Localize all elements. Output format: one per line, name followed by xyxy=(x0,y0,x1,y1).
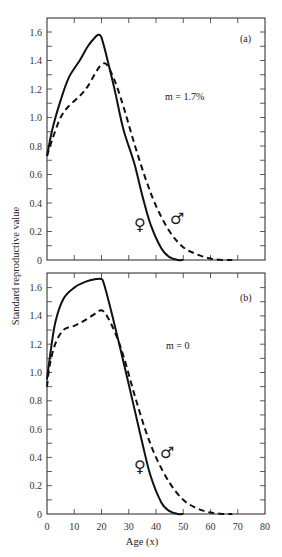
y-tick-label: 1.2 xyxy=(30,84,43,95)
panel-a-annotation: m = 1.7% xyxy=(165,91,204,102)
panel-b-annotation: m = 0 xyxy=(166,340,189,351)
y-axis-label: Standard reproductive value xyxy=(10,206,21,325)
x-tick-label: 20 xyxy=(97,521,107,532)
y-tick-label: 1.4 xyxy=(30,55,43,66)
x-tick-label: 0 xyxy=(45,521,50,532)
male-curve xyxy=(47,310,232,514)
y-tick-label: 1.2 xyxy=(30,339,43,350)
female-curve xyxy=(47,279,183,515)
panel-a-frame xyxy=(47,18,265,260)
x-tick-label: 70 xyxy=(233,521,243,532)
y-tick-label: 0.2 xyxy=(30,226,43,237)
y-tick-label: 0 xyxy=(37,255,42,266)
y-tick-label: 1.4 xyxy=(30,310,43,321)
female-symbol-a: ♀ xyxy=(134,215,146,234)
y-tick-label: 1.6 xyxy=(30,282,43,293)
female-curve xyxy=(47,35,183,261)
panel-a-label: (a) xyxy=(240,33,251,45)
x-tick-label: 10 xyxy=(69,521,79,532)
x-tick-label: 60 xyxy=(206,521,216,532)
reproductive-value-chart: 00.20.40.60.81.01.21.41.600.20.40.60.81.… xyxy=(0,0,282,557)
x-tick-label: 30 xyxy=(124,521,134,532)
male-symbol-a: ♂ xyxy=(170,209,184,228)
x-axis-label: Age (x) xyxy=(126,536,159,548)
x-tick-label: 50 xyxy=(178,521,188,532)
y-tick-label: 0.2 xyxy=(30,480,43,491)
x-tick-label: 80 xyxy=(260,521,270,532)
axis-tick-labels: 00.20.40.60.81.01.21.41.600.20.40.60.81.… xyxy=(30,27,271,533)
y-tick-label: 0.6 xyxy=(30,424,43,435)
axis-ticks xyxy=(47,18,265,514)
y-tick-label: 0.6 xyxy=(30,169,43,180)
y-tick-label: 0 xyxy=(37,509,42,520)
panel-b-frame xyxy=(47,273,265,514)
y-tick-label: 0.4 xyxy=(30,452,43,463)
y-tick-label: 0.4 xyxy=(30,198,43,209)
y-tick-label: 1.6 xyxy=(30,27,43,38)
y-tick-label: 1.0 xyxy=(30,112,43,123)
female-symbol-b: ♀ xyxy=(134,457,146,476)
y-tick-label: 0.8 xyxy=(30,395,43,406)
y-tick-label: 0.8 xyxy=(30,141,43,152)
male-symbol-b: ♂ xyxy=(160,443,174,462)
y-tick-label: 1.0 xyxy=(30,367,43,378)
x-tick-label: 40 xyxy=(151,521,161,532)
panel-b-label: (b) xyxy=(240,292,252,304)
data-curves xyxy=(47,35,232,515)
